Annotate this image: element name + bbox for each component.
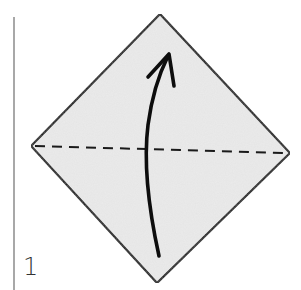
- origami-step-frame: 1: [0, 0, 301, 290]
- origami-diagram: [0, 0, 301, 290]
